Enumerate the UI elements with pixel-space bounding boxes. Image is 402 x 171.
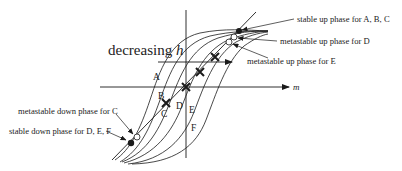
decreasing-h-label: decreasing h [108,42,183,58]
stable-up-point [236,28,242,34]
curve-label-f: F [191,123,196,133]
annotation-stable-down: stable down phase for D, E, F [9,126,111,136]
curve-label-a: A [153,72,160,82]
curve-label-b: B [158,91,164,101]
curve-label-c: C [161,109,167,119]
annotation-metastable-up-e: metastable up phase for E [247,56,336,66]
annotation-metastable-down-c: metastable down phase for C [18,106,118,116]
metastable-up-point-e [226,39,232,45]
curve-label-d: D [176,101,183,111]
stable-down-point [128,140,134,146]
metastable-down-point-c [134,134,140,140]
leader-lines [106,19,294,140]
m-axis-label: m [293,82,300,92]
curve-label-e: E [189,105,195,115]
metastable-up-point-d [231,34,237,40]
annotation-stable-up: stable up phase for A, B, C [297,14,390,24]
annotation-metastable-up-d: metastable up phase for D [280,36,370,46]
crossing-markers [162,53,219,107]
hysteresis-diagram: m decreasing h A B C D E F stable up p [0,0,402,171]
